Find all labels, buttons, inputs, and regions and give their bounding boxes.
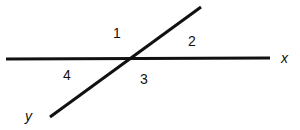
intersecting-lines-diagram: 1 2 3 4 x y [0,0,300,130]
line-x [6,58,270,59]
diagram-canvas: 1 2 3 4 x y [0,0,300,130]
angle-label-2: 2 [188,33,196,49]
angle-label-1: 1 [113,25,121,41]
angle-label-4: 4 [63,67,71,83]
line-label-y: y [24,108,33,124]
line-y [50,7,201,117]
angle-label-3: 3 [140,71,148,87]
line-label-x: x [280,50,289,66]
